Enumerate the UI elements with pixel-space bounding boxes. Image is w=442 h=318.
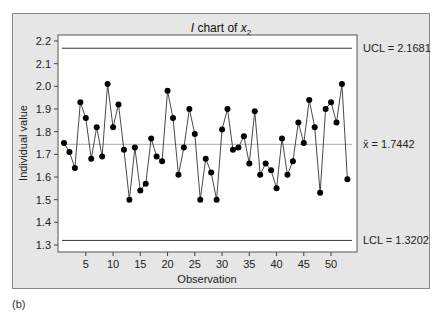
data-point bbox=[148, 135, 154, 141]
data-point bbox=[241, 133, 247, 139]
data-point bbox=[279, 135, 285, 141]
data-point bbox=[334, 120, 340, 126]
x-axis-label: Observation bbox=[177, 273, 236, 285]
data-point bbox=[61, 140, 67, 146]
data-point bbox=[252, 108, 258, 114]
data-point bbox=[328, 99, 334, 105]
data-point bbox=[181, 145, 187, 151]
x-tick-label: 30 bbox=[216, 258, 228, 270]
panel-label: (b) bbox=[12, 298, 25, 310]
data-point bbox=[143, 181, 149, 187]
center-label: x̄ = 1.7442 bbox=[363, 138, 415, 150]
data-point bbox=[257, 172, 263, 178]
data-point bbox=[295, 120, 301, 126]
x-tick-label: 35 bbox=[243, 258, 255, 270]
data-point bbox=[88, 156, 94, 162]
data-point bbox=[284, 172, 290, 178]
data-point bbox=[219, 126, 225, 132]
x-tick-label: 45 bbox=[298, 258, 310, 270]
data-point bbox=[105, 81, 111, 87]
data-point bbox=[246, 160, 252, 166]
data-point bbox=[225, 106, 231, 112]
y-tick-label: 2.0 bbox=[36, 80, 51, 92]
y-tick-label: 1.8 bbox=[36, 126, 51, 138]
y-tick-label: 1.7 bbox=[36, 148, 51, 160]
data-point bbox=[72, 165, 78, 171]
data-point bbox=[170, 115, 176, 121]
i-chart: 1.31.41.51.61.71.81.92.02.12.25101520253… bbox=[0, 0, 442, 318]
data-point bbox=[99, 154, 105, 160]
x-tick-label: 20 bbox=[161, 258, 173, 270]
data-point bbox=[165, 88, 171, 94]
ucl-label: UCL = 2.1681 bbox=[363, 42, 431, 54]
data-point bbox=[208, 169, 214, 175]
data-point bbox=[235, 145, 241, 151]
data-point bbox=[121, 147, 127, 153]
data-point bbox=[116, 101, 122, 107]
data-point bbox=[66, 149, 72, 155]
x-tick-label: 50 bbox=[325, 258, 337, 270]
data-point bbox=[192, 131, 198, 137]
data-point bbox=[230, 147, 236, 153]
data-point bbox=[154, 154, 160, 160]
y-tick-label: 2.2 bbox=[36, 35, 51, 47]
data-point bbox=[263, 160, 269, 166]
data-point bbox=[339, 81, 345, 87]
y-tick-label: 1.3 bbox=[36, 239, 51, 251]
data-point bbox=[132, 145, 138, 151]
data-point bbox=[312, 124, 318, 130]
x-tick-label: 15 bbox=[134, 258, 146, 270]
x-tick-label: 10 bbox=[107, 258, 119, 270]
x-tick-label: 40 bbox=[270, 258, 282, 270]
data-point bbox=[159, 158, 165, 164]
data-point bbox=[301, 140, 307, 146]
data-point bbox=[274, 185, 280, 191]
data-point bbox=[344, 176, 350, 182]
data-point bbox=[317, 190, 323, 196]
data-point bbox=[323, 106, 329, 112]
y-tick-label: 1.5 bbox=[36, 194, 51, 206]
data-point bbox=[175, 172, 181, 178]
data-point bbox=[290, 158, 296, 164]
data-point bbox=[186, 106, 192, 112]
data-point bbox=[94, 124, 100, 130]
y-tick-label: 1.6 bbox=[36, 171, 51, 183]
x-tick-label: 25 bbox=[189, 258, 201, 270]
data-point bbox=[83, 115, 89, 121]
data-point bbox=[137, 188, 143, 194]
data-point bbox=[214, 197, 220, 203]
data-point bbox=[77, 99, 83, 105]
y-axis-label: Individual value bbox=[17, 105, 29, 181]
y-tick-label: 1.9 bbox=[36, 103, 51, 115]
data-point bbox=[268, 167, 274, 173]
data-point bbox=[306, 97, 312, 103]
data-point bbox=[110, 124, 116, 130]
x-tick-label: 5 bbox=[83, 258, 89, 270]
y-tick-label: 2.1 bbox=[36, 58, 51, 70]
y-tick-label: 1.4 bbox=[36, 216, 51, 228]
lcl-label: LCL = 1.3202 bbox=[363, 234, 429, 246]
data-point bbox=[126, 197, 132, 203]
data-point bbox=[197, 197, 203, 203]
data-point bbox=[203, 156, 209, 162]
